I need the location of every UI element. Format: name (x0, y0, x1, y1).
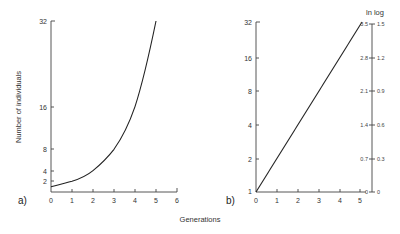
tick-label: 2 (296, 197, 300, 204)
tick-label: 5 (154, 197, 158, 204)
tick-label: 8 (43, 146, 47, 153)
panel-a-growth-curve (51, 21, 156, 187)
panel-b-growth-line (256, 22, 362, 192)
x-axis-title: Generations (180, 215, 221, 224)
tick-label: 1 (70, 197, 74, 204)
ln-tick-label: 1.4 (360, 122, 368, 128)
ln-tick-label: 2.1 (360, 88, 368, 94)
panel-a: 32 16 8 4 2 0 1 2 3 4 5 6 Number of indi… (14, 18, 179, 207)
panel-a-x-ticks: 0 1 2 3 4 5 6 (49, 188, 179, 204)
tick-label: 4 (338, 197, 342, 204)
panel-b: 32 16 8 4 2 1 0 1 2 3 4 5 (226, 8, 385, 206)
log-tick-label: 0.6 (377, 122, 385, 128)
panel-b-secondary-axis: 3.5 2.8 2.1 1.4 0.7 0 1.5 1.2 0.9 0.6 0.… (360, 8, 384, 195)
tick-label: 6 (175, 197, 179, 204)
ln-tick-label: 3.5 (360, 21, 368, 27)
tick-label: 32 (39, 18, 47, 25)
tick-label: 2 (248, 156, 252, 163)
ln-tick-label: 0.7 (360, 156, 368, 162)
log-tick-label: 1.2 (377, 55, 385, 61)
ln-tick-label: 2.8 (360, 55, 368, 61)
panel-b-y-ticks: 32 16 8 4 2 1 (244, 19, 260, 196)
tick-label: 0 (254, 197, 258, 204)
panel-b-x-ticks: 0 1 2 3 4 5 (254, 189, 362, 204)
tick-label: 3 (317, 197, 321, 204)
secondary-axis-title: ln log (366, 8, 384, 17)
tick-label: 4 (43, 168, 47, 175)
log-tick-label: 0.3 (377, 156, 385, 162)
tick-label: 3 (112, 197, 116, 204)
tick-label: 16 (39, 104, 47, 111)
log-tick-label: 0 (377, 189, 380, 195)
panel-b-label: b) (226, 195, 235, 206)
tick-label: 32 (244, 19, 252, 26)
log-tick-label: 1.5 (377, 21, 385, 27)
tick-label: 2 (43, 178, 47, 185)
y-axis-title: Number of individuals (14, 71, 23, 143)
tick-label: 8 (248, 88, 252, 95)
tick-label: 0 (49, 197, 53, 204)
figure: 32 16 8 4 2 0 1 2 3 4 5 6 Number of indi… (0, 0, 400, 234)
tick-label: 4 (133, 197, 137, 204)
log-tick-label: 0.9 (377, 88, 385, 94)
ln-tick-label: 0 (365, 189, 368, 195)
tick-label: 4 (248, 122, 252, 129)
tick-label: 5 (358, 197, 362, 204)
tick-label: 2 (91, 197, 95, 204)
tick-label: 16 (244, 55, 252, 62)
panel-a-y-ticks: 32 16 8 4 2 (39, 18, 55, 186)
tick-label: 1 (275, 197, 279, 204)
tick-label: 1 (248, 188, 252, 195)
panel-a-label: a) (18, 195, 27, 206)
